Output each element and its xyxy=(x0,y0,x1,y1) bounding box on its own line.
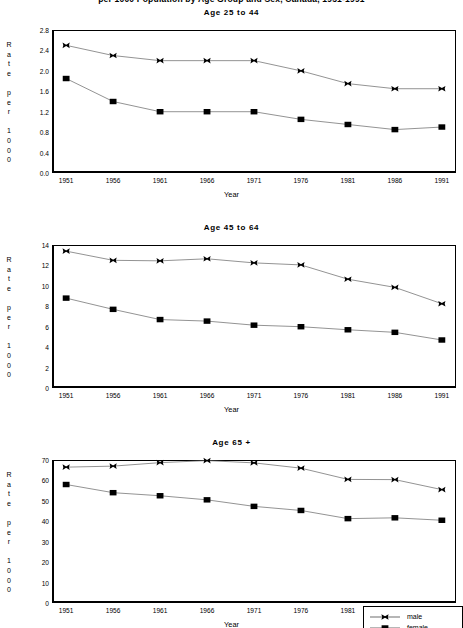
y-axis-tick-label: 1.6 xyxy=(40,88,49,95)
x-marker-icon xyxy=(156,258,163,264)
x-marker-icon xyxy=(381,614,388,620)
series-layer xyxy=(52,245,456,388)
square-marker-icon xyxy=(438,518,445,523)
x-marker-icon xyxy=(438,301,445,307)
x-marker-icon xyxy=(391,86,398,92)
x-marker-icon xyxy=(63,43,70,49)
square-marker-icon xyxy=(204,497,211,502)
y-axis-tick-label: 40 xyxy=(42,518,49,525)
y-axis-label: R a t e p e r 1 0 0 0 xyxy=(2,40,16,165)
x-axis-tick-label: 1961 xyxy=(153,607,168,614)
legend: malefemale xyxy=(363,606,463,628)
square-marker-icon xyxy=(251,109,258,114)
x-marker-icon xyxy=(344,477,351,483)
x-marker-icon xyxy=(250,58,257,64)
y-axis-tick-label: 6 xyxy=(45,323,49,330)
y-axis-tick-label: 8 xyxy=(45,303,49,310)
x-axis-tick-label: 1976 xyxy=(294,392,309,399)
x-marker-icon xyxy=(203,256,210,262)
y-axis-tick-label: 12 xyxy=(42,262,49,269)
chart-panel-age-25-44: Age 25 to 44 R a t e p e r 1 0 0 0 0.00.… xyxy=(0,0,463,205)
y-axis-tick-label: 0 xyxy=(45,385,49,392)
y-axis-tick-label: 20 xyxy=(42,559,49,566)
y-axis-tick-label: 10 xyxy=(42,282,49,289)
square-marker-icon xyxy=(251,504,258,509)
y-axis-tick-label: 0.0 xyxy=(40,170,49,177)
square-marker-icon xyxy=(345,327,352,332)
y-axis-tick-label: 10 xyxy=(42,579,49,586)
y-axis-tick-label: 2.8 xyxy=(40,27,49,34)
series-line-male xyxy=(66,251,442,304)
x-axis-tick-label: 1981 xyxy=(341,607,356,614)
x-marker-icon xyxy=(297,465,304,471)
x-axis-tick-label: 1951 xyxy=(59,392,74,399)
x-marker-icon xyxy=(391,477,398,483)
y-axis-tick-label: 2.4 xyxy=(40,47,49,54)
square-marker-icon xyxy=(298,117,305,122)
x-marker-icon xyxy=(110,258,117,264)
x-marker-icon xyxy=(438,86,445,92)
y-axis-tick-label: 70 xyxy=(42,457,49,464)
x-axis-tick-label: 1961 xyxy=(153,177,168,184)
series-layer xyxy=(52,30,456,173)
x-marker-icon xyxy=(250,260,257,266)
square-marker-icon xyxy=(298,324,305,329)
y-axis-tick-label: 4 xyxy=(45,344,49,351)
square-marker-icon xyxy=(438,337,445,342)
square-marker-icon xyxy=(157,109,164,114)
y-axis-tick-label: 30 xyxy=(42,538,49,545)
square-marker-icon xyxy=(298,508,305,513)
x-marker-icon xyxy=(203,58,210,64)
square-marker-icon xyxy=(63,482,70,487)
y-axis-tick-label: 2.0 xyxy=(40,67,49,74)
x-axis-tick-label: 1986 xyxy=(388,392,403,399)
series-line-female xyxy=(66,485,442,521)
x-axis-tick-label: 1961 xyxy=(153,392,168,399)
x-axis-label: Year xyxy=(0,190,463,199)
square-marker-icon xyxy=(370,623,400,628)
x-marker-icon xyxy=(297,262,304,268)
square-marker-icon xyxy=(110,99,117,104)
x-axis-tick-label: 1951 xyxy=(59,607,74,614)
chart-title: Age 65 + xyxy=(0,438,463,447)
chart-panel-age-65-plus: Age 65 + R a t e p e r 1 0 0 0 010203040… xyxy=(0,420,463,628)
y-axis-tick-label: 1.2 xyxy=(40,108,49,115)
square-marker-icon xyxy=(345,122,352,127)
figure-root: per 1000 Population by Age Group and Sex… xyxy=(0,0,463,628)
x-marker-icon xyxy=(344,276,351,282)
plot-area: 0102030405060701951195619611966197119761… xyxy=(52,460,456,603)
x-axis-tick-label: 1991 xyxy=(435,177,450,184)
legend-item: male xyxy=(370,611,454,622)
chart-panel-age-45-64: Age 45 to 64 R a t e p e r 1 0 0 0 02468… xyxy=(0,205,463,420)
square-marker-icon xyxy=(251,322,258,327)
x-marker-icon xyxy=(63,248,70,254)
square-marker-icon xyxy=(110,490,117,495)
x-axis-tick-label: 1981 xyxy=(341,177,356,184)
x-marker-icon xyxy=(438,487,445,493)
x-marker-icon xyxy=(110,463,117,469)
plot-area: 0246810121419511956196119661971197619811… xyxy=(52,245,456,388)
x-axis-tick-label: 1966 xyxy=(200,392,215,399)
square-marker-icon xyxy=(110,307,117,312)
y-axis-tick-label: 0.8 xyxy=(40,129,49,136)
legend-label: male xyxy=(407,613,422,620)
series-layer xyxy=(52,460,456,603)
x-axis-tick-label: 1951 xyxy=(59,177,74,184)
x-axis-tick-label: 1991 xyxy=(435,392,450,399)
x-marker-icon xyxy=(391,285,398,291)
square-marker-icon xyxy=(391,127,398,132)
x-axis-tick-label: 1966 xyxy=(200,177,215,184)
square-marker-icon xyxy=(345,516,352,521)
x-axis-tick-label: 1971 xyxy=(247,607,262,614)
x-axis-label: Year xyxy=(0,405,463,414)
x-marker-icon xyxy=(370,612,400,622)
x-axis-tick-label: 1981 xyxy=(341,392,356,399)
chart-title: Age 25 to 44 xyxy=(0,8,463,17)
x-axis-tick-label: 1956 xyxy=(106,607,121,614)
y-axis-label: R a t e p e r 1 0 0 0 xyxy=(2,255,16,380)
y-axis-tick-label: 60 xyxy=(42,477,49,484)
square-marker-icon xyxy=(157,493,164,498)
x-marker-icon xyxy=(110,53,117,59)
square-marker-icon xyxy=(157,317,164,322)
x-marker-icon xyxy=(63,464,70,470)
